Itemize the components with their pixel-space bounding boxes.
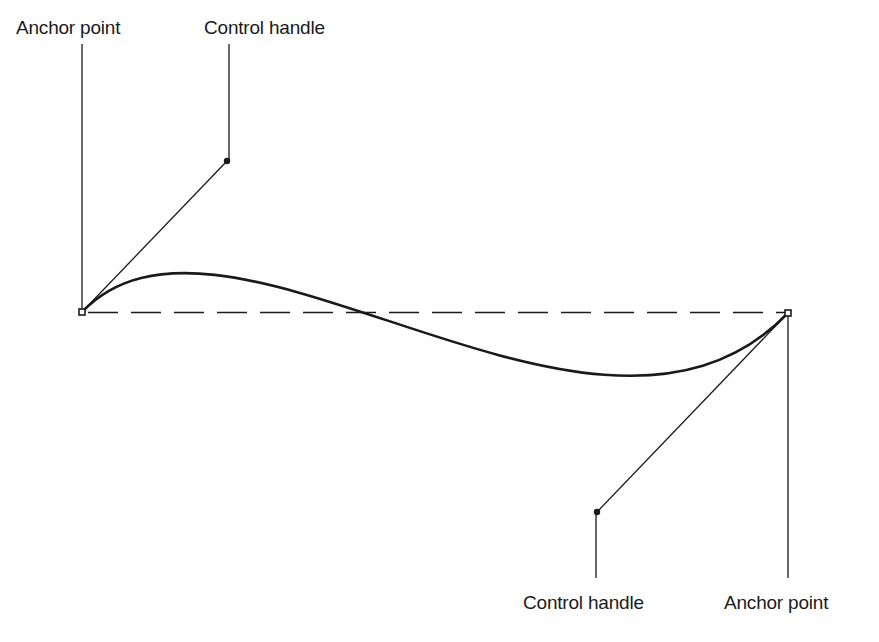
control-handle-1-dot	[224, 158, 230, 164]
label-control-handle-bottom: Control handle	[523, 592, 644, 614]
label-anchor-point-start: Anchor point	[16, 17, 120, 39]
bezier-curve	[82, 273, 788, 376]
anchor-point-end-square	[785, 310, 791, 316]
label-anchor-point-end: Anchor point	[724, 592, 828, 614]
control-2-handle-line	[597, 313, 788, 512]
anchor-point-start-square	[79, 309, 85, 315]
control-handle-2-dot	[594, 509, 600, 515]
bezier-diagram	[0, 0, 879, 642]
label-control-handle-top: Control handle	[204, 17, 325, 39]
control-1-handle-line	[82, 161, 227, 312]
